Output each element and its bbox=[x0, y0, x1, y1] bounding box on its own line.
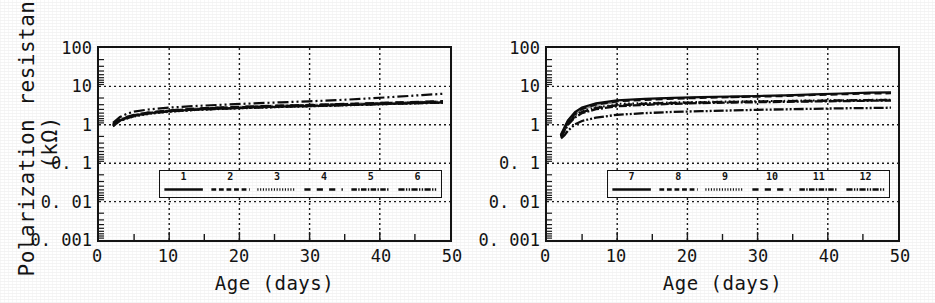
legend-item: 4 bbox=[300, 171, 347, 197]
x-tick-label: 40 bbox=[371, 246, 391, 266]
grid-vertical-right bbox=[617, 48, 828, 240]
x-tick-label: 20 bbox=[677, 246, 697, 266]
x-axis-title-right: Age (days) bbox=[545, 272, 900, 294]
y-tick-label: 10 bbox=[72, 76, 92, 96]
legend-label: 2 bbox=[207, 172, 254, 182]
plot-area-right: 7 8 9 10 bbox=[545, 46, 900, 242]
legend-item: 7 bbox=[608, 171, 655, 197]
x-ticks-right bbox=[582, 232, 863, 240]
figure-polarization-resistance: Polarization resistance (kΩ) 100 10 1 0.… bbox=[0, 0, 935, 303]
legend-label: 11 bbox=[795, 172, 842, 182]
legend-left: 1 2 3 4 bbox=[159, 170, 442, 198]
data-series-group-right bbox=[561, 92, 891, 138]
legend-line-solid bbox=[611, 186, 652, 193]
plot-area-left: 1 2 3 4 bbox=[97, 46, 452, 242]
y-tick-label: 10 bbox=[520, 76, 540, 96]
x-tick-label: 10 bbox=[158, 246, 178, 266]
legend-label: 10 bbox=[748, 172, 795, 182]
legend-item: 1 bbox=[160, 171, 207, 197]
legend-item: 6 bbox=[394, 171, 441, 197]
x-tick-label: 30 bbox=[300, 246, 320, 266]
y-tick-label: 1 bbox=[530, 115, 540, 135]
chart-panel-left: 100 10 1 0. 1 0. 01 0. 001 bbox=[0, 0, 470, 303]
legend-item: 10 bbox=[748, 171, 795, 197]
x-tick-label: 10 bbox=[606, 246, 626, 266]
y-tick-label: 1 bbox=[82, 115, 92, 135]
legend-label: 12 bbox=[842, 172, 889, 182]
legend-item: 12 bbox=[842, 171, 889, 197]
x-tick-label: 20 bbox=[229, 246, 249, 266]
x-axis-title-left: Age (days) bbox=[97, 272, 452, 294]
chart-panel-right: 100 10 1 0. 1 0. 01 0. 001 bbox=[465, 0, 935, 303]
legend-line-dashdotdot bbox=[397, 186, 438, 193]
x-tick-label: 50 bbox=[442, 246, 462, 266]
x-tick-label: 0 bbox=[540, 246, 550, 266]
x-tick-label: 40 bbox=[819, 246, 839, 266]
legend-item: 11 bbox=[795, 171, 842, 197]
series-line-10 bbox=[561, 100, 891, 136]
x-tick-label: 30 bbox=[748, 246, 768, 266]
y-tick-label: 0. 001 bbox=[31, 230, 92, 250]
plot-svg-left bbox=[99, 48, 450, 240]
legend-label: 7 bbox=[608, 172, 655, 182]
y-tick-label: 0. 01 bbox=[489, 192, 540, 212]
legend-line-dotted bbox=[704, 186, 745, 193]
series-line-5 bbox=[113, 103, 443, 126]
y-tick-label: 0. 1 bbox=[51, 153, 92, 173]
legend-label: 9 bbox=[702, 172, 749, 182]
y-tick-label: 100 bbox=[61, 38, 92, 58]
legend-line-solid bbox=[163, 186, 204, 193]
legend-label: 1 bbox=[160, 172, 207, 182]
legend-item: 2 bbox=[207, 171, 254, 197]
y-tick-label: 0. 001 bbox=[479, 230, 540, 250]
legend-item: 9 bbox=[702, 171, 749, 197]
legend-label: 3 bbox=[254, 172, 301, 182]
x-tick-label: 50 bbox=[890, 246, 910, 266]
legend-label: 5 bbox=[347, 172, 394, 182]
series-line-12 bbox=[561, 108, 891, 139]
legend-line-dashdotdot bbox=[845, 186, 886, 193]
x-ticks-left bbox=[134, 232, 415, 240]
legend-item: 8 bbox=[655, 171, 702, 197]
x-tick-label: 0 bbox=[92, 246, 102, 266]
legend-label: 6 bbox=[394, 172, 441, 182]
legend-line-longdash bbox=[751, 186, 792, 193]
legend-line-dashdot bbox=[350, 186, 391, 193]
y-tick-label: 0. 01 bbox=[41, 192, 92, 212]
legend-right: 7 8 9 10 bbox=[607, 170, 890, 198]
legend-line-dashed bbox=[658, 186, 699, 193]
y-tick-label: 0. 1 bbox=[499, 153, 540, 173]
grid-vertical-left bbox=[169, 48, 380, 240]
plot-svg-right bbox=[547, 48, 898, 240]
y-tick-label: 100 bbox=[509, 38, 540, 58]
legend-line-dotted bbox=[256, 186, 297, 193]
y-axis-tick-labels-right: 100 10 1 0. 1 0. 01 0. 001 bbox=[465, 0, 540, 303]
legend-item: 5 bbox=[347, 171, 394, 197]
legend-label: 8 bbox=[655, 172, 702, 182]
legend-label: 4 bbox=[300, 172, 347, 182]
legend-line-dashed bbox=[210, 186, 251, 193]
legend-line-dashdot bbox=[798, 186, 839, 193]
y-axis-tick-labels-left: 100 10 1 0. 1 0. 01 0. 001 bbox=[0, 0, 92, 303]
legend-item: 3 bbox=[254, 171, 301, 197]
legend-line-longdash bbox=[303, 186, 344, 193]
series-line-6 bbox=[113, 94, 443, 123]
series-line-7 bbox=[561, 92, 891, 134]
